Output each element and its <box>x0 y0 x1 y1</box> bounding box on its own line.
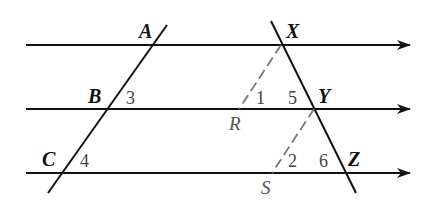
angle-label-1: 1 <box>256 88 265 108</box>
angle-label-3: 3 <box>126 88 135 108</box>
point-label-z: Z <box>347 148 360 170</box>
angle-label-5: 5 <box>288 88 297 108</box>
parallel-lines-diagram: A B C X Y Z R S 1 2 3 4 5 6 <box>0 0 426 204</box>
point-label-y: Y <box>318 85 332 107</box>
point-label-x: X <box>285 20 300 42</box>
transversal-right-xyz <box>271 21 356 193</box>
point-label-b: B <box>87 85 101 107</box>
point-label-c: C <box>42 148 56 170</box>
angle-label-2: 2 <box>288 151 297 171</box>
point-label-a: A <box>137 20 152 42</box>
point-label-r: R <box>228 113 241 134</box>
angle-label-6: 6 <box>319 151 328 171</box>
point-label-s: S <box>261 177 271 198</box>
angle-label-4: 4 <box>80 151 89 171</box>
